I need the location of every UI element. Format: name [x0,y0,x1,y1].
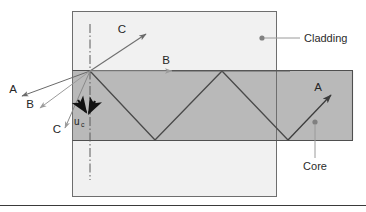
cladding-label: Cladding [304,32,347,44]
core-callout-dot [312,119,317,124]
ray-label-exit-a: A [314,81,322,93]
core-label: Core [303,160,327,172]
ray-label-grazing-b: B [162,54,170,66]
ray-label-incident-c: C [53,123,61,135]
ray-label-incident-b: B [26,98,34,110]
ray-label-refracted-c: C [118,23,126,35]
ray-label-incident-a: A [9,83,17,95]
critical-angle-subscript: c [81,121,85,128]
figure-canvas: Cladding Core A B C C B A u c [0,0,366,212]
critical-angle-symbol: u [74,116,80,127]
cladding-callout-dot [259,35,264,40]
optical-fiber-figure: Cladding Core A B C C B A u c [0,0,366,212]
